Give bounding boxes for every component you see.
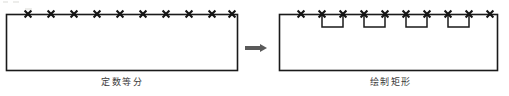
scan-artifact <box>25 8 32 10</box>
left-rectangle-outline <box>7 15 238 71</box>
figure-canvas: 定数等分 绘制矩形 <box>0 0 509 96</box>
right-rectangle-diagram <box>272 0 509 76</box>
right-arrow-icon <box>245 43 267 53</box>
left-figure-panel: 定数等分 <box>0 0 244 96</box>
right-figure-panel: 绘制矩形 <box>272 0 509 96</box>
left-rectangle-diagram <box>0 0 244 76</box>
scan-artifact <box>3 1 8 3</box>
rectangle-outline-path <box>7 15 238 71</box>
scan-artifact <box>13 1 19 3</box>
right-rectangle-outline <box>280 15 498 71</box>
right-figure-caption: 绘制矩形 <box>272 76 509 88</box>
left-figure-caption: 定数等分 <box>0 76 244 88</box>
rectangle-outline-path <box>280 15 498 71</box>
